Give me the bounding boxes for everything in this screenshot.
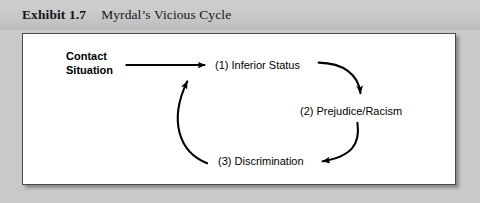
figure-panel: Contact Situation (1) Inferior Status (2…: [22, 33, 456, 185]
contact-situation-label: Contact Situation: [66, 50, 113, 77]
exhibit-header-band: Exhibit 1.7Myrdal’s Vicious Cycle: [0, 0, 480, 30]
exhibit-caption: Exhibit 1.7Myrdal’s Vicious Cycle: [22, 5, 231, 23]
node-discrimination: (3) Discrimination: [218, 155, 304, 168]
exhibit-title: Myrdal’s Vicious Cycle: [101, 7, 231, 22]
exhibit-number-label: Exhibit 1.7: [22, 7, 86, 22]
contact-situation-line-2: Situation: [66, 64, 113, 76]
exhibit-figure-root: Exhibit 1.7Myrdal’s Vicious Cycle: [0, 0, 480, 203]
arrow-inferior-to-prejudice: [319, 63, 361, 94]
node-prejudice-racism: (2) Prejudice/Racism: [300, 105, 402, 118]
contact-situation-line-1: Contact: [66, 50, 107, 62]
node-inferior-status: (1) Inferior Status: [215, 59, 300, 72]
arrow-prejudice-to-discrimination: [323, 123, 358, 161]
arrow-discrimination-to-inferior: [178, 81, 207, 163]
